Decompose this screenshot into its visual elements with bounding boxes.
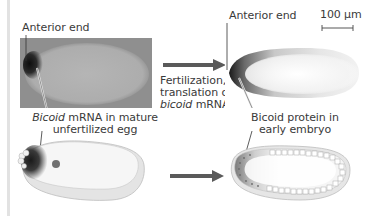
early-embryo-photo xyxy=(225,38,362,108)
scale-bar-label: 100 µm xyxy=(320,9,362,21)
anterior-end-label-right: Anterior end xyxy=(229,10,296,22)
anterior-end-label-left: Anterior end xyxy=(22,22,89,34)
bottom-left-caption-line2: unfertilized egg xyxy=(30,124,160,136)
mrna-text: mRNA xyxy=(192,98,229,111)
bottom-right-caption-line2: early embryo xyxy=(240,124,350,136)
middle-caption-line3: bicoid mRNA xyxy=(160,99,229,111)
page-margin-bar xyxy=(7,0,10,216)
unfertilized-egg-photo xyxy=(20,38,152,108)
bicoid-italic: bicoid xyxy=(160,98,192,111)
